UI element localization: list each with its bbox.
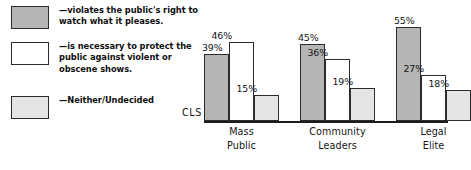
- bar-value-label: 39%: [202, 42, 223, 53]
- y-axis-label: CLS: [178, 107, 202, 119]
- bar-rect[interactable]: [396, 27, 421, 121]
- bar-rect[interactable]: [350, 88, 375, 121]
- bar-rect[interactable]: [325, 59, 350, 121]
- bar-group: 45%36%19%Community Leaders: [300, 18, 375, 121]
- bar-group: 55%27%18%Legal Elite: [396, 18, 471, 121]
- legend-swatch-necessary: [11, 42, 49, 65]
- bar-value-label: 27%: [403, 63, 424, 74]
- bar-rect[interactable]: [204, 54, 229, 121]
- legend-swatch-neither: [11, 96, 49, 119]
- bar-value-label: 15%: [236, 83, 257, 94]
- legend-item-necessary: —is necessary to protect the public agai…: [11, 41, 192, 75]
- bar-group-label: Legal Elite: [396, 125, 471, 152]
- bar-group-label: Community Leaders: [300, 125, 375, 152]
- bar-value-label: 18%: [428, 78, 449, 89]
- bar-item[interactable]: 45%: [300, 18, 325, 121]
- x-axis-baseline: [204, 121, 448, 123]
- bar-item[interactable]: 36%: [325, 18, 350, 121]
- bar-item[interactable]: 46%: [229, 18, 254, 121]
- legend-label-neither: —Neither/Undecided: [59, 95, 154, 106]
- bar-group: 39%46%15%Mass Public: [204, 18, 279, 121]
- bar-value-label: 36%: [307, 47, 328, 58]
- bar-value-label: 19%: [332, 76, 353, 87]
- bar-rect[interactable]: [254, 95, 279, 121]
- legend-swatch-violates: [11, 6, 49, 29]
- chart-plot-area: CLS 39%46%15%Mass Public45%36%19%Communi…: [178, 18, 450, 166]
- bar-groups-container: 39%46%15%Mass Public45%36%19%Community L…: [204, 18, 448, 121]
- legend-item-neither: —Neither/Undecided: [11, 95, 154, 119]
- bar-group-bars: 39%46%15%: [204, 18, 279, 121]
- bar-item[interactable]: 19%: [350, 18, 375, 121]
- bar-item[interactable]: 15%: [254, 18, 279, 121]
- bar-item[interactable]: 18%: [446, 18, 471, 121]
- bar-value-label: 55%: [394, 15, 415, 26]
- bar-value-label: 45%: [298, 32, 319, 43]
- bar-group-label: Mass Public: [204, 125, 279, 152]
- bar-rect[interactable]: [229, 42, 254, 121]
- bar-rect[interactable]: [446, 90, 471, 121]
- bar-value-label: 46%: [211, 30, 232, 41]
- bar-group-bars: 55%27%18%: [396, 18, 471, 121]
- bar-group-bars: 45%36%19%: [300, 18, 375, 121]
- bar-item[interactable]: 27%: [421, 18, 446, 121]
- legend-label-necessary: —is necessary to protect the public agai…: [59, 41, 192, 75]
